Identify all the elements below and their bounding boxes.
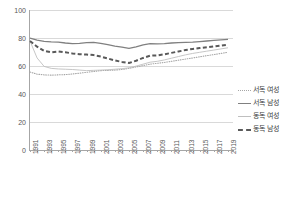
y-axis-labels: 100 80 60 40 20 0 — [0, 0, 26, 202]
legend-label: 서독 남성 — [253, 99, 279, 107]
y-tick-0: 0 — [2, 147, 26, 154]
dotted-line-key — [238, 86, 251, 95]
y-tick-40: 40 — [2, 91, 26, 98]
series-paths — [29, 10, 233, 151]
y-tick-60: 60 — [2, 63, 26, 70]
legend-item-seodok-namseong[interactable]: 서독 남성 — [238, 97, 296, 109]
thin-line-key — [238, 112, 251, 121]
legend-item-dongdok-namseong[interactable]: 동독 남성 — [238, 123, 296, 135]
legend-label: 동독 남성 — [253, 125, 279, 133]
series-line — [30, 41, 228, 63]
y-tick-20: 20 — [2, 119, 26, 126]
plot-area — [29, 10, 233, 151]
legend-label: 동독 여성 — [253, 112, 279, 120]
dashed-line-key — [238, 125, 251, 134]
y-tick-80: 80 — [2, 35, 26, 42]
chart-legend: 서독 여성 서독 남성 동독 여성 동독 남성 — [238, 84, 296, 136]
legend-item-seodok-yeoseong[interactable]: 서독 여성 — [238, 84, 296, 96]
series-line — [30, 41, 228, 71]
series-line — [30, 38, 228, 48]
legend-label: 서독 여성 — [253, 86, 279, 94]
line-chart: 100 80 60 40 20 0 1991199319951997199920… — [0, 0, 296, 202]
y-tick-100: 100 — [2, 7, 26, 14]
legend-item-dongdok-yeoseong[interactable]: 동독 여성 — [238, 110, 296, 122]
solid-line-key — [238, 99, 251, 108]
